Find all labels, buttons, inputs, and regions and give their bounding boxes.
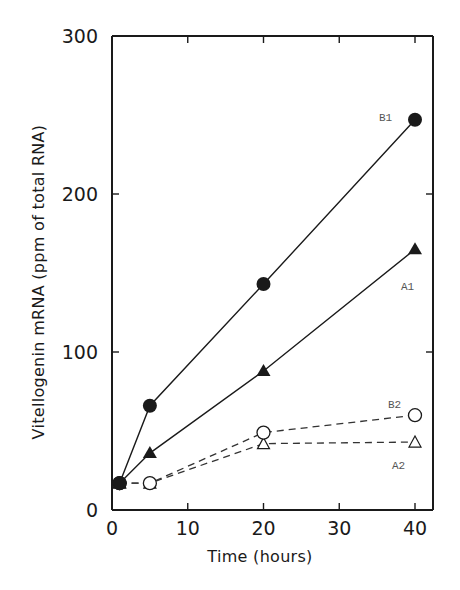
x-tick-label: 40	[403, 517, 427, 539]
data-point-a1	[257, 364, 271, 376]
tick-labels: 0102030400100200300	[62, 25, 427, 539]
data-point-b2	[409, 409, 422, 422]
data-point-b2	[143, 477, 156, 490]
series-layer	[113, 113, 422, 490]
x-axis-title: Time (hours)	[206, 547, 312, 566]
series-label-a1: A1	[401, 281, 415, 293]
data-point-a1	[143, 446, 157, 458]
y-axis-title: Vitellogenin mRNA (ppm of total RNA)	[29, 125, 48, 440]
y-tick-label: 0	[86, 499, 98, 521]
y-tick-label: 100	[62, 341, 98, 363]
y-tick-label: 300	[62, 25, 98, 47]
data-point-b1	[143, 399, 157, 413]
x-tick-label: 10	[176, 517, 200, 539]
data-point-b2	[257, 426, 270, 439]
data-point-a1	[408, 242, 422, 254]
data-point-b1	[408, 113, 422, 127]
data-point-b1	[257, 277, 271, 291]
data-point-start	[113, 476, 127, 490]
x-tick-label: 30	[327, 517, 351, 539]
data-point-a2	[409, 436, 421, 447]
y-tick-label: 200	[62, 183, 98, 205]
x-tick-label: 20	[251, 517, 275, 539]
series-label-b1: B1	[379, 112, 393, 124]
line-chart: 0102030400100200300 B1 A1 B2 A2 Time (ho…	[0, 0, 460, 590]
x-tick-label: 0	[106, 517, 118, 539]
series-label-b2: B2	[388, 399, 401, 411]
series-label-a2: A2	[392, 460, 405, 472]
